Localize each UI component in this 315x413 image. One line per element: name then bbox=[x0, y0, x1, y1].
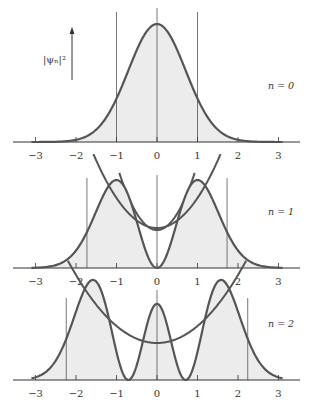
x-tick-label: −2 bbox=[69, 276, 84, 287]
panel-n0: −3−2−10123n = 0 bbox=[13, 8, 300, 230]
x-tick-label: −1 bbox=[109, 388, 124, 399]
y-axis-label-group: |ψₙ|² bbox=[43, 27, 75, 80]
x-tick-label: 0 bbox=[154, 150, 160, 161]
x-tick-label: −3 bbox=[28, 150, 43, 161]
x-tick-label: 1 bbox=[194, 276, 200, 287]
n-label: n = 1 bbox=[268, 206, 294, 217]
x-tick-label: −1 bbox=[109, 150, 124, 161]
x-tick-label: −2 bbox=[69, 150, 84, 161]
panel-n1: −3−2−10123n = 1 bbox=[13, 154, 300, 287]
y-axis-label: |ψₙ|² bbox=[43, 54, 66, 66]
x-tick-label: 3 bbox=[275, 150, 281, 161]
n-label: n = 2 bbox=[268, 318, 294, 329]
figure: |ψₙ|² −3−2−10123n = 0−3−2−10123n = 1−3−2… bbox=[0, 0, 315, 413]
x-tick-label: −3 bbox=[28, 276, 43, 287]
n-label: n = 0 bbox=[268, 80, 294, 91]
x-tick-label: 2 bbox=[235, 388, 241, 399]
x-tick-label: −1 bbox=[109, 276, 124, 287]
x-tick-label: 3 bbox=[275, 276, 281, 287]
x-tick-label: −3 bbox=[28, 388, 43, 399]
x-tick-label: 2 bbox=[235, 150, 241, 161]
x-tick-label: 1 bbox=[194, 150, 200, 161]
x-tick-label: −2 bbox=[69, 388, 84, 399]
x-tick-label: 0 bbox=[154, 388, 160, 399]
x-tick-label: 0 bbox=[154, 276, 160, 287]
x-tick-label: 1 bbox=[194, 388, 200, 399]
x-tick-label: 3 bbox=[275, 388, 281, 399]
y-axis-arrowhead-icon bbox=[70, 27, 75, 34]
